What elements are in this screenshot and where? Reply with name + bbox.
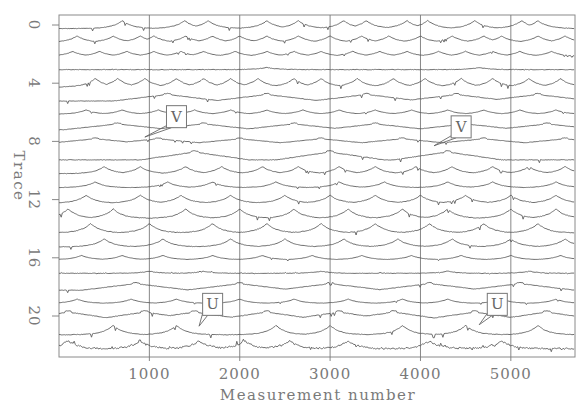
x-tick-label: 5000 (490, 365, 532, 383)
annotation-u: U (479, 293, 507, 324)
trace-line (59, 339, 574, 352)
annotation-label: U (206, 295, 219, 313)
y-tick-label: 0 (25, 20, 43, 31)
y-tick-label: 20 (25, 305, 43, 326)
trace-line (59, 271, 574, 274)
x-tick-label: 3000 (309, 365, 351, 383)
trace-line (59, 209, 574, 221)
trace-line (59, 51, 574, 57)
annotation-u: U (199, 293, 223, 326)
trace-line (59, 78, 574, 88)
trace-line (59, 67, 574, 70)
annotation-label: U (491, 295, 504, 313)
trace-line (59, 110, 574, 115)
trace-line (59, 195, 574, 205)
trace-line (59, 239, 574, 250)
x-tick-label: 4000 (399, 365, 441, 383)
annotation-v: V (145, 106, 187, 137)
y-tick-label: 16 (25, 247, 43, 268)
y-tick-label: 8 (25, 136, 43, 147)
trace-line (59, 151, 574, 163)
trace-line (59, 20, 574, 31)
trace-line (59, 182, 574, 189)
y-axis-title: Trace (10, 151, 28, 202)
annotation-label: V (170, 108, 183, 126)
trace-line (59, 224, 574, 236)
y-axis-ticks: 048121620 (25, 20, 59, 327)
trace-line (59, 325, 574, 338)
x-axis-title: Measurement number (220, 386, 416, 404)
trace-line (59, 36, 574, 44)
x-tick-label: 1000 (128, 365, 170, 383)
trace-line (59, 123, 574, 130)
trace-line (59, 93, 574, 103)
trace-line (59, 138, 574, 145)
annotation-label: V (455, 118, 468, 136)
trace-line (59, 255, 574, 261)
trace-line (59, 282, 574, 292)
x-axis-ticks: 10002000300040005000 (128, 365, 532, 383)
y-tick-label: 4 (25, 78, 43, 89)
trace-line (59, 167, 574, 175)
trace-chart: 10002000300040005000 048121620 VVUU Meas… (0, 0, 588, 409)
x-tick-label: 2000 (219, 365, 261, 383)
